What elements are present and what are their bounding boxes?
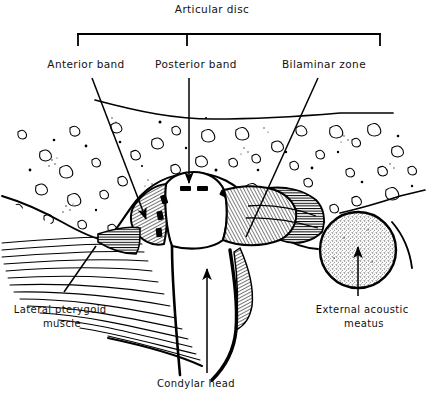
label-articular-disc: Articular disc — [175, 3, 249, 15]
label-line-2: muscle — [43, 318, 81, 329]
label-anterior-band: Anterior band — [47, 58, 124, 70]
label-posterior-band: Posterior band — [155, 58, 237, 70]
label-line-1: External acoustic — [316, 304, 409, 315]
label-line-2: meatus — [344, 318, 384, 329]
label-bilaminar-zone: Bilaminar zone — [282, 58, 366, 70]
figure-canvas: Articular disc Anterior band Posterior b… — [0, 0, 427, 405]
label-line-1: Lateral pterygoid — [14, 304, 107, 315]
mandibular-condyle-head — [165, 172, 227, 249]
label-condylar-head: Condylar head — [157, 378, 235, 389]
